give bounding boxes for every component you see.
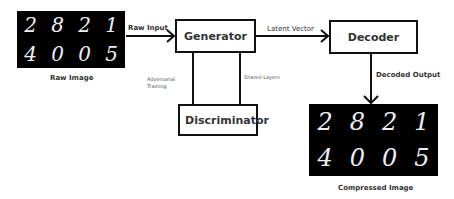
latent-vector-label: Latent Vector — [267, 25, 314, 33]
digit: 0 — [51, 42, 64, 66]
compressed-image-label: Compressed Image — [338, 184, 413, 192]
digit: 0 — [350, 144, 365, 172]
generator-node: Generator — [175, 19, 256, 53]
digit: 1 — [414, 108, 429, 136]
adversarial-training-line2: Training — [147, 83, 175, 90]
digit: 1 — [105, 13, 118, 37]
compressed-image: 2 8 2 1 4 0 0 5 — [309, 104, 438, 176]
discriminator-node: Discriminator — [178, 104, 258, 136]
decoder-node: Decoder — [329, 20, 418, 54]
digit: 4 — [24, 42, 37, 66]
shared-layers-label: Shared Layers — [244, 74, 280, 81]
generator-label: Generator — [184, 30, 247, 43]
discriminator-label: Discriminator — [185, 114, 269, 127]
digit: 2 — [78, 13, 91, 37]
raw-image: 2 8 2 1 4 0 0 5 — [17, 11, 125, 68]
digit: 0 — [382, 144, 397, 172]
adversarial-training-line1: Adversarial — [147, 76, 175, 83]
adversarial-training-label: Adversarial Training — [147, 76, 175, 90]
digit: 5 — [105, 42, 118, 66]
digit: 8 — [350, 108, 365, 136]
digit: 0 — [78, 42, 91, 66]
digit: 5 — [414, 144, 429, 172]
raw-input-label: Raw Input — [128, 24, 168, 32]
digit: 8 — [51, 13, 64, 37]
digit: 2 — [382, 108, 397, 136]
digit: 4 — [317, 144, 332, 172]
decoder-label: Decoder — [348, 31, 399, 44]
raw-image-label: Raw Image — [50, 74, 93, 82]
digit: 2 — [317, 108, 332, 136]
decoded-output-label: Decoded Output — [376, 71, 440, 79]
digit: 2 — [24, 13, 37, 37]
